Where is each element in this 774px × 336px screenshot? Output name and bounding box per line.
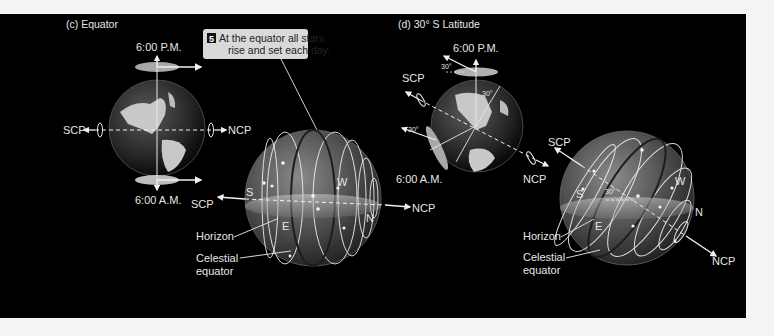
celestial-diagram: (c) Equator 6:00 P.M. 6:00 A.M.	[0, 0, 774, 336]
dir-east: E	[595, 220, 602, 232]
label-6pm: 6:00 P.M.	[453, 42, 499, 54]
celestial-sphere-equator: S E W N SCP NCP Horizon Celestial equato…	[191, 130, 435, 277]
label-6am: 6:00 A.M.	[135, 194, 181, 206]
ncp-arrow	[536, 160, 548, 166]
panel-d-title: (d) 30° S Latitude	[398, 18, 480, 30]
label-scp: SCP	[402, 72, 425, 84]
angle-label-6pm: 30°	[441, 63, 452, 70]
equator-label-line-1: Celestial	[523, 251, 565, 263]
sky-label-scp: SCP	[548, 136, 571, 148]
dir-west: W	[675, 175, 686, 187]
equator-label-line-1: Celestial	[196, 252, 238, 264]
dir-north: N	[695, 206, 703, 218]
horizon-label: Horizon	[196, 230, 234, 242]
label-ncp: NCP	[228, 124, 251, 136]
sky-scp-arrow	[218, 197, 245, 199]
dir-west: W	[337, 176, 348, 188]
angle-label-6am: 30°	[408, 126, 419, 133]
sky-label-ncp: NCP	[712, 255, 735, 267]
equator-label-line-2: equator	[523, 264, 561, 276]
label-ncp: NCP	[523, 173, 546, 185]
dir-north: N	[366, 212, 374, 224]
label-6am: 6:00 A.M.	[396, 173, 442, 185]
callout-leader	[281, 59, 317, 130]
sky-angle-label: 30°	[605, 188, 616, 195]
sky-label-ncp: NCP	[412, 202, 435, 214]
sky-ncp-arrow	[686, 236, 716, 256]
panel-d: (d) 30° S Latitude 6:00 P.M.	[396, 18, 735, 276]
label-6pm: 6:00 P.M.	[136, 41, 182, 53]
panel-c-title: (c) Equator	[66, 18, 118, 30]
sky-label-scp: SCP	[191, 198, 214, 210]
callout-box: 5 At the equator all stars rise and set …	[203, 29, 330, 130]
angle-label-center: 30°	[482, 90, 493, 97]
earth-globe-30s: 6:00 P.M. 6:00 A.M. SCP NCP 30° 30° 30°	[396, 42, 548, 185]
callout-line-2: rise and set each day.	[228, 44, 330, 56]
dir-south: S	[576, 188, 583, 200]
callout-number: 5	[209, 34, 214, 44]
callout-line-1: At the equator all stars	[219, 32, 324, 44]
horizon-label: Horizon	[523, 230, 561, 242]
label-scp: SCP	[63, 124, 86, 136]
earth-globe-equator: 6:00 P.M. 6:00 A.M. SCP NCP	[63, 41, 251, 206]
rotation-icon-lower	[525, 151, 536, 166]
celestial-sphere-30s: S E W N 30° SCP NCP Horizon Celestial eq…	[523, 129, 735, 276]
dir-south: S	[246, 186, 253, 198]
panel-c: (c) Equator 6:00 P.M. 6:00 A.M.	[63, 18, 435, 277]
sky-ncp-arrow	[385, 205, 410, 207]
equator-label-line-2: equator	[196, 265, 234, 277]
dir-east: E	[282, 220, 289, 232]
